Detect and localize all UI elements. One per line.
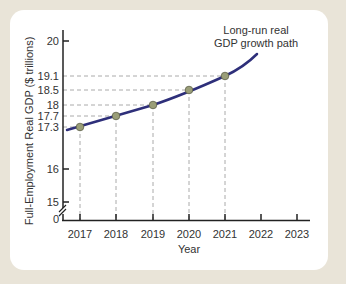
svg-text:2017: 2017 <box>68 228 92 240</box>
svg-text:2023: 2023 <box>285 228 309 240</box>
curve-annotation: Long-run real GDP growth path <box>214 24 298 49</box>
y-tick-labels: 20 19.1 18.5 18 17.7 17.3 16 15 0 <box>38 35 59 225</box>
svg-text:2021: 2021 <box>213 228 237 240</box>
x-axis-title: Year <box>178 243 201 255</box>
x-tick-labels: 2017 2018 2019 2020 2021 2022 2023 <box>68 228 309 240</box>
svg-text:2018: 2018 <box>104 228 128 240</box>
svg-text:17.3: 17.3 <box>38 121 59 133</box>
svg-text:18.5: 18.5 <box>38 84 59 96</box>
svg-text:16: 16 <box>47 163 59 175</box>
y-axis-title: Full-Employment Real GDP ($ trillions) <box>23 37 35 226</box>
svg-text:GDP growth path: GDP growth path <box>214 37 298 49</box>
svg-text:20: 20 <box>47 35 59 47</box>
svg-text:19.1: 19.1 <box>38 70 59 82</box>
svg-text:0: 0 <box>53 213 59 225</box>
growth-path-line <box>67 54 257 130</box>
axes <box>59 30 310 221</box>
svg-text:2020: 2020 <box>177 228 201 240</box>
chart-svg: 20 19.1 18.5 18 17.7 17.3 16 15 0 2017 2… <box>0 0 346 284</box>
svg-text:15: 15 <box>47 196 59 208</box>
guide-lines <box>63 76 225 220</box>
svg-text:2022: 2022 <box>249 228 273 240</box>
svg-text:Long-run real: Long-run real <box>223 24 288 36</box>
svg-text:2019: 2019 <box>141 228 165 240</box>
